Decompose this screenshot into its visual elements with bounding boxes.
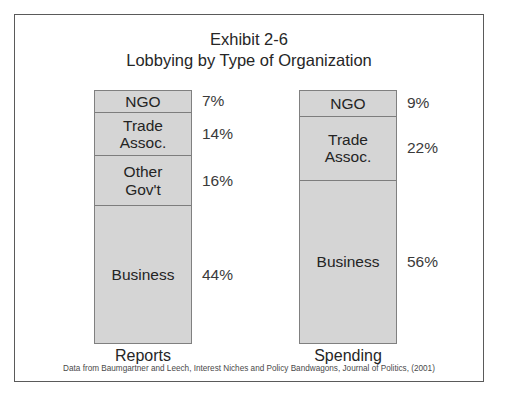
bar-group-spending: NGO Trade Assoc. Business [299,90,397,344]
bar-segment-label: Trade Assoc. [323,131,374,166]
bar-segment-reports-trade-assoc[interactable]: Trade Assoc. [95,113,191,157]
bar-segment-spending-ngo[interactable]: NGO [300,91,396,117]
bar-segment-spending-business[interactable]: Business [300,181,396,343]
bar-segment-reports-business[interactable]: Business [95,206,191,343]
percentage-labels-spending: 9% 22% 56% [401,90,461,344]
bar-value-label-spending-trade-assoc: 22% [401,139,461,157]
bar-segment-label: Business [110,266,177,283]
bar-value-label-spending-business: 56% [401,253,461,271]
chart-plot-area: NGO Trade Assoc. Other Gov't Business 7%… [15,15,483,381]
percentage-labels-reports: 7% 14% 16% 44% [196,90,256,344]
category-label-spending: Spending [278,347,418,365]
bar-segment-spending-trade-assoc[interactable]: Trade Assoc. [300,117,396,181]
stacked-bar-reports[interactable]: NGO Trade Assoc. Other Gov't Business [94,90,192,344]
bar-segment-label: Other Gov't [122,163,165,198]
bar-segment-label: NGO [328,95,367,112]
bar-segment-reports-other-govt[interactable]: Other Gov't [95,156,191,206]
bar-segment-label: Trade Assoc. [118,117,169,152]
figure-frame: Exhibit 2-6 Lobbying by Type of Organiza… [14,14,484,382]
bar-value-label-reports-business: 44% [196,266,256,284]
bar-segment-label: NGO [123,93,162,110]
bar-value-label-spending-ngo: 9% [401,94,461,112]
bar-segment-label: Business [315,253,382,270]
category-label-reports: Reports [73,347,213,365]
bar-segment-reports-ngo[interactable]: NGO [95,91,191,113]
bar-value-label-reports-ngo: 7% [196,92,256,110]
bar-value-label-reports-other-govt: 16% [196,172,256,190]
bar-value-label-reports-trade-assoc: 14% [196,125,256,143]
source-citation: Data from Baumgartner and Leech, Interes… [15,364,483,373]
bar-group-reports: NGO Trade Assoc. Other Gov't Business [94,90,192,344]
stacked-bar-spending[interactable]: NGO Trade Assoc. Business [299,90,397,344]
